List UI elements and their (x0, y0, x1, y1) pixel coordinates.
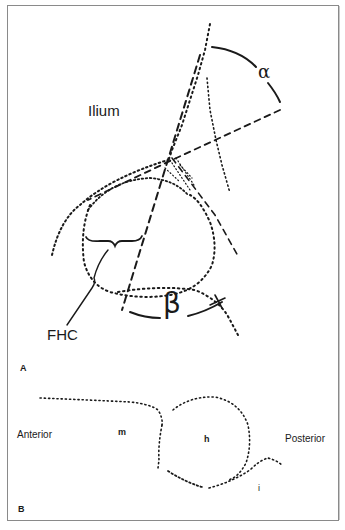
label-ilium: Ilium (88, 103, 120, 118)
alpha-angle-arc-end (268, 83, 280, 102)
label-posterior: Posterior (285, 434, 325, 444)
growth-plate-brace (86, 236, 142, 246)
label-h: h (204, 435, 210, 444)
label-m: m (118, 428, 126, 437)
label-anterior: Anterior (17, 430, 52, 440)
femoral-head-contour (83, 195, 215, 297)
beta-angle-arc (130, 312, 160, 318)
panel-label-b: B (18, 505, 25, 514)
metaphysis-contour (158, 425, 162, 468)
label-i: i (258, 484, 260, 493)
alpha-angle-arc (212, 47, 256, 67)
ischium-contour (168, 471, 202, 487)
label-beta-angle: β (163, 290, 181, 318)
capsule-contour (40, 398, 162, 425)
label-fhc: FHC (47, 327, 78, 342)
label-alpha-angle: α (258, 63, 270, 81)
beta-angle-arc-end (188, 302, 222, 316)
panel-label-a: A (20, 364, 27, 373)
acetabular-roof-contour (88, 178, 188, 210)
baseline-dashed-line (122, 55, 200, 310)
cartilage-roof-line (172, 158, 238, 256)
femoral-head-circle-b (173, 397, 250, 480)
hip-sonography-diagram (0, 0, 345, 530)
ossification-speckle (165, 158, 194, 190)
ischium-contour-right (209, 458, 282, 488)
